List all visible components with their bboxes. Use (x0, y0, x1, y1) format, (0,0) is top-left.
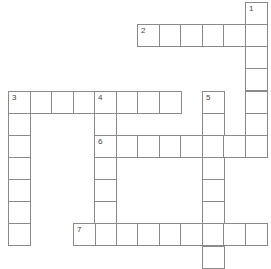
crossword-cell[interactable] (202, 157, 225, 180)
crossword-cell[interactable] (137, 91, 160, 114)
crossword-cell[interactable] (8, 113, 31, 136)
crossword-cell[interactable] (202, 113, 225, 136)
crossword-cell[interactable]: 6 (94, 135, 117, 158)
crossword-cell[interactable] (8, 179, 31, 202)
crossword-cell[interactable] (202, 201, 225, 224)
crossword-cell[interactable] (116, 223, 139, 246)
crossword-cell[interactable] (245, 68, 268, 91)
crossword-cell[interactable] (202, 135, 225, 158)
crossword-cell[interactable]: 4 (94, 91, 117, 114)
crossword-cell[interactable] (245, 135, 268, 158)
crossword-cell[interactable] (202, 246, 225, 269)
crossword-cell[interactable] (245, 46, 268, 69)
crossword-cell[interactable]: 7 (73, 223, 96, 246)
crossword-cell[interactable] (116, 91, 139, 114)
crossword-cell[interactable] (223, 24, 246, 47)
crossword-cell[interactable] (202, 223, 225, 246)
crossword-cell[interactable] (202, 24, 225, 47)
crossword-cell[interactable] (8, 135, 31, 158)
crossword-cell[interactable] (8, 223, 31, 246)
crossword-cell[interactable] (73, 91, 96, 114)
clue-number: 2 (141, 27, 145, 35)
crossword-cell[interactable]: 3 (8, 91, 31, 114)
crossword-cell[interactable] (159, 24, 182, 47)
clue-number: 3 (12, 94, 16, 102)
clue-number: 7 (77, 226, 81, 234)
crossword-cell[interactable] (116, 135, 139, 158)
crossword-cell[interactable] (159, 135, 182, 158)
crossword-cell[interactable] (223, 135, 246, 158)
clue-number: 1 (249, 5, 253, 13)
crossword-cell[interactable] (51, 91, 74, 114)
clue-number: 5 (206, 94, 210, 102)
crossword-cell[interactable] (202, 179, 225, 202)
crossword-cell[interactable] (159, 91, 182, 114)
crossword-cell[interactable] (8, 157, 31, 180)
clue-number: 4 (98, 94, 102, 102)
crossword-cell[interactable] (245, 91, 268, 114)
crossword-cell[interactable] (245, 223, 268, 246)
crossword-cell[interactable] (94, 179, 117, 202)
crossword-cell[interactable]: 5 (202, 91, 225, 114)
crossword-cell[interactable]: 2 (137, 24, 160, 47)
crossword-cell[interactable] (94, 201, 117, 224)
crossword-cell[interactable] (180, 135, 203, 158)
clue-number: 6 (98, 138, 102, 146)
crossword-cell[interactable]: 1 (245, 2, 268, 25)
crossword-cell[interactable] (245, 113, 268, 136)
crossword-cell[interactable] (245, 24, 268, 47)
crossword-cell[interactable] (137, 223, 160, 246)
crossword-cell[interactable] (94, 113, 117, 136)
crossword-cell[interactable] (8, 201, 31, 224)
crossword-cell[interactable] (94, 157, 117, 180)
crossword-cell[interactable] (180, 24, 203, 47)
crossword-cell[interactable] (223, 223, 246, 246)
crossword-cell[interactable] (159, 223, 182, 246)
crossword-cell[interactable] (137, 135, 160, 158)
crossword-cell[interactable] (94, 223, 117, 246)
crossword-cell[interactable] (30, 91, 53, 114)
crossword-cell[interactable] (180, 223, 203, 246)
